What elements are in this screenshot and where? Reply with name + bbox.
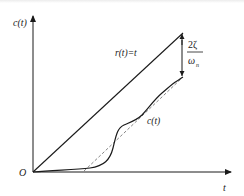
error-numerator: 2ζ — [188, 39, 197, 51]
origin-label: O — [19, 167, 26, 178]
output-response-curve — [33, 77, 183, 172]
steady-state-asymptote — [84, 77, 183, 171]
output-curve-label: c(t) — [147, 116, 160, 127]
y-axis-label: c(t) — [13, 17, 28, 29]
ramp-input-line — [33, 33, 183, 172]
x-axis-label: t — [223, 182, 226, 193]
error-denominator-subscript: n — [196, 62, 199, 68]
diagram-canvas: c(t) t O r(t)=t c(t) 2ζ ω n — [0, 0, 244, 196]
ramp-input-label: r(t)=t — [115, 48, 137, 59]
error-denominator: ω — [188, 55, 195, 66]
ramp-response-diagram: c(t) t O r(t)=t c(t) 2ζ ω n — [0, 0, 244, 196]
